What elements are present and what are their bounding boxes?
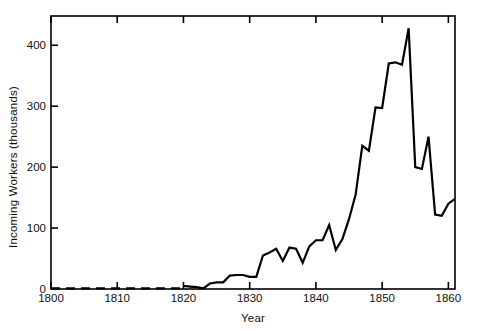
x-tick-label: 1830 (225, 292, 275, 304)
x-tick-label: 1840 (291, 292, 341, 304)
x-tick-label: 1810 (92, 292, 142, 304)
x-tick-label: 1820 (158, 292, 208, 304)
x-axis-label: Year (51, 312, 455, 324)
x-axis-tick-labels: 1800181018201830184018501860 (0, 0, 482, 334)
x-tick-label: 1850 (357, 292, 407, 304)
chart-figure: Incoming Workers (thousands) 01002003004… (0, 0, 482, 334)
x-tick-label: 1860 (423, 292, 473, 304)
x-tick-label: 1800 (26, 292, 76, 304)
